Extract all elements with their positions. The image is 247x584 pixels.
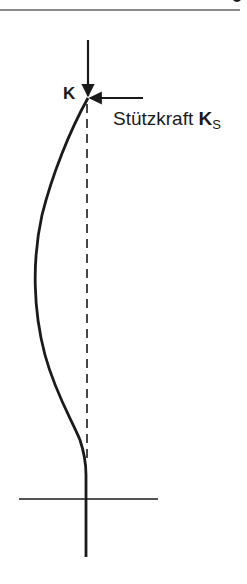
support-force-subscript: S: [212, 117, 221, 132]
support-force-label: Stützkraft KS: [113, 108, 221, 132]
support-force-symbol: K: [199, 108, 213, 129]
support-force-text: Stützkraft: [113, 108, 193, 129]
page-glyph-fragment: [233, 0, 241, 2]
load-force-label: K: [63, 84, 75, 104]
buckling-diagram: [0, 0, 247, 584]
buckled-column-curve: [35, 98, 88, 557]
